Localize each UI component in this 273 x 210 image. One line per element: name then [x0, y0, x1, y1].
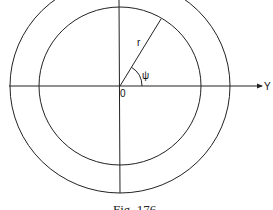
figure-caption: Fig. 176	[113, 202, 157, 210]
annulus-diagram: r ψ 0 Y Fig. 176	[0, 0, 273, 210]
angle-arc	[132, 67, 143, 86]
radius-line	[120, 19, 161, 86]
axis-arrowhead-icon	[257, 84, 263, 89]
angle-label: ψ	[142, 70, 149, 81]
axis-label: Y	[264, 81, 271, 92]
origin-label: 0	[120, 88, 126, 99]
radius-label: r	[137, 37, 141, 48]
